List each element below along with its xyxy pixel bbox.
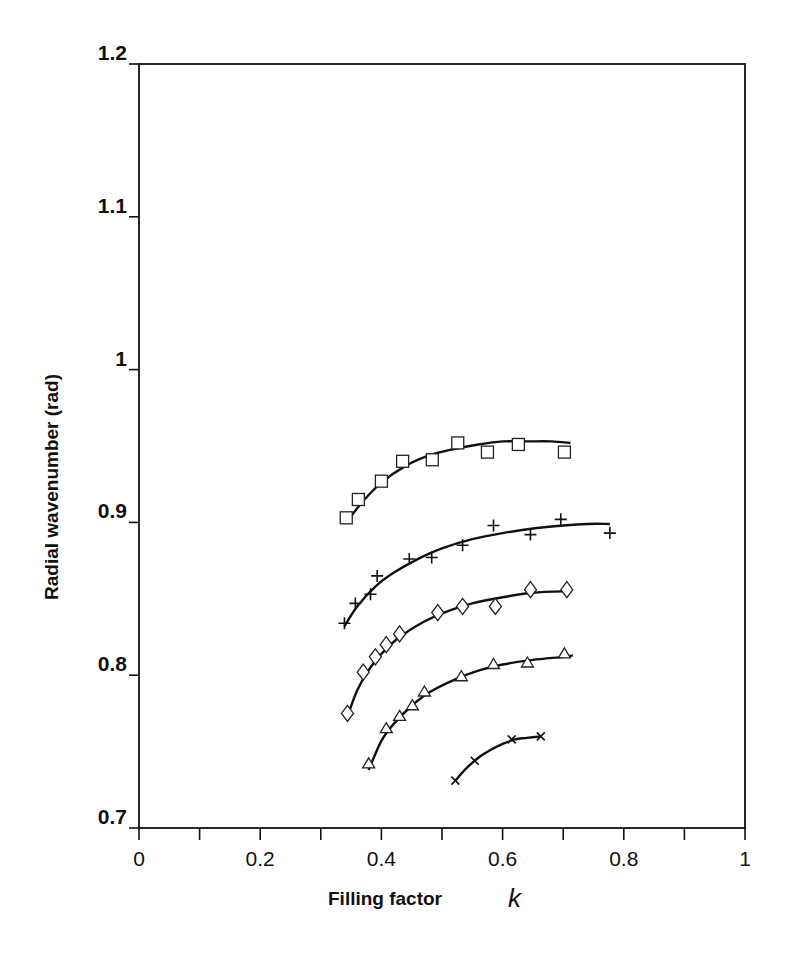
marker-triangle	[558, 648, 570, 658]
marker-plus	[488, 519, 500, 531]
marker-square	[512, 438, 524, 450]
y-tick-label: 1.1	[98, 194, 128, 217]
marker-diamond	[489, 598, 501, 614]
marker-diamond	[524, 582, 536, 598]
x-tick-label: 1	[739, 847, 751, 870]
fit-curve-crosses	[455, 736, 540, 780]
x-tick-label: 0.2	[246, 847, 275, 870]
plot-frame	[139, 64, 745, 828]
y-tick-label: 0.9	[98, 499, 127, 522]
marker-x	[471, 757, 479, 765]
marker-square	[481, 446, 493, 458]
marker-diamond	[457, 598, 469, 614]
marker-plus	[555, 513, 567, 525]
y-tick-label: 0.7	[98, 805, 127, 828]
marker-square	[452, 437, 464, 449]
x-tick-label: 0.8	[609, 847, 638, 870]
marker-plus	[349, 597, 361, 609]
marker-diamond	[380, 637, 392, 653]
y-tick-label: 1.2	[98, 41, 127, 64]
marker-diamond	[357, 664, 369, 680]
fit-curve-plus	[344, 524, 609, 626]
marker-triangle	[418, 686, 430, 696]
y-axis-title: Radial wavenumber (rad)	[41, 374, 62, 600]
x-tick-label: 0.6	[488, 847, 517, 870]
marker-diamond	[369, 649, 381, 665]
marker-plus	[604, 527, 616, 539]
marker-plus	[364, 588, 376, 600]
data-markers	[338, 437, 615, 785]
chart: 00.20.40.60.810.70.80.911.11.2 Filling f…	[0, 0, 785, 954]
marker-square	[375, 475, 387, 487]
x-axis-variable: k	[508, 883, 523, 913]
x-tick-label: 0	[133, 847, 145, 870]
y-tick-label: 0.8	[98, 652, 128, 675]
marker-diamond	[561, 582, 573, 598]
marker-square	[340, 512, 352, 524]
x-axis-title: Filling factor	[328, 888, 443, 909]
marker-plus	[403, 553, 415, 565]
marker-x	[451, 777, 459, 785]
x-tick-label: 0.4	[367, 847, 397, 870]
marker-square	[397, 455, 409, 467]
marker-triangle	[488, 659, 500, 669]
marker-square	[558, 446, 570, 458]
marker-square	[352, 493, 364, 505]
y-tick-label: 1	[115, 347, 127, 370]
axes: 00.20.40.60.810.70.80.911.11.2	[98, 41, 751, 870]
marker-square	[426, 454, 438, 466]
